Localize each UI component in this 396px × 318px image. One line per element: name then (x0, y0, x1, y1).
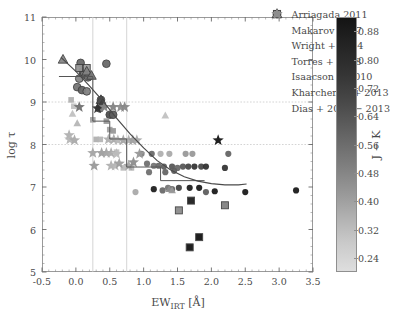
data-point (157, 151, 163, 157)
data-point (183, 151, 189, 157)
legend-label: Isaacson + 2010 (291, 71, 372, 82)
data-point (187, 185, 193, 191)
data-point (203, 164, 209, 170)
colorbar-tick-label: 0.24 (358, 252, 379, 263)
x-tick-label: 3.0 (272, 276, 287, 287)
x-axis-label: EWIRT [Å] (151, 296, 205, 311)
y-tick-label: 7 (30, 182, 36, 193)
colorbar-tick-label: 0.56 (358, 139, 379, 150)
data-point (166, 151, 172, 157)
data-point (293, 187, 299, 193)
data-point (132, 189, 138, 195)
data-point (180, 164, 186, 170)
x-axis-label-sub: IRT (171, 302, 185, 311)
y-tick-label: 10 (24, 54, 36, 65)
y-tick-label: 5 (30, 267, 36, 278)
data-point (110, 128, 116, 134)
colorbar-tick (354, 145, 358, 146)
data-point (221, 202, 228, 209)
x-tick-label: 0.5 (102, 276, 117, 287)
y-tick-label: 6 (30, 224, 36, 235)
data-point (189, 151, 195, 157)
data-point (73, 119, 81, 126)
data-point (146, 169, 152, 175)
colorbar-tick-label: 0.32 (358, 224, 379, 235)
data-point (213, 134, 224, 145)
colorbar-tick-label: 0.48 (358, 167, 379, 178)
data-point (69, 110, 77, 117)
colorbar-tick (354, 201, 358, 202)
colorbar-tick (354, 60, 358, 61)
y-tick-label: 9 (30, 97, 36, 108)
series-torres-2008 (132, 151, 299, 195)
colorbar-tick-label: 0.80 (358, 54, 379, 65)
data-point (83, 88, 91, 96)
x-tick-label: 1.5 (170, 276, 185, 287)
data-point (203, 189, 209, 195)
data-point (185, 164, 191, 170)
data-point (191, 164, 197, 170)
data-point (160, 187, 166, 193)
x-tick-label: 2.0 (204, 276, 219, 287)
y-tick-label: 11 (24, 12, 36, 23)
data-point (151, 186, 157, 192)
data-point (134, 148, 145, 159)
data-point (222, 165, 228, 171)
data-point (111, 148, 122, 159)
data-point (242, 189, 248, 195)
series-makarov-2007 (76, 65, 229, 251)
colorbar-tick-label: 0.72 (358, 82, 379, 93)
colorbar-tick (354, 258, 358, 259)
x-tick-label: 3.5 (305, 276, 320, 287)
data-point (97, 137, 103, 143)
data-point (196, 185, 202, 191)
data-point (74, 101, 85, 112)
series-dias-2002-2013 (63, 101, 223, 170)
x-tick-label: -0.5 (33, 276, 51, 287)
y-axis-label: log τ (5, 132, 18, 159)
data-point (68, 97, 74, 103)
data-point (186, 244, 193, 251)
colorbar-tick (354, 230, 358, 231)
data-point (196, 234, 203, 241)
x-tick-label: 1.0 (136, 276, 151, 287)
data-point (76, 65, 83, 72)
data-point (272, 8, 284, 19)
data-point (103, 60, 111, 68)
data-point (225, 151, 231, 157)
colorbar-tick (354, 88, 358, 89)
y-tick-label: 8 (30, 139, 36, 150)
colorbar-tick (354, 116, 358, 117)
data-point (89, 160, 100, 171)
colorbar-tick-label: 0.88 (358, 26, 379, 37)
x-tick-label: 0.0 (68, 276, 83, 287)
data-point (144, 161, 150, 167)
data-point (176, 185, 182, 191)
colorbar-tick-label: 0.64 (358, 111, 379, 122)
colorbar-tick (354, 173, 358, 174)
colorbar-tick-label: 0.40 (358, 196, 379, 207)
legend-item-0[interactable]: Arriagada 2011 (271, 8, 390, 21)
data-point (162, 169, 168, 175)
x-axis-label-unit: [Å] (185, 296, 205, 309)
legend-item-2[interactable]: Wright + 2004 (271, 39, 390, 52)
data-point (175, 207, 182, 214)
x-tick-label: 2.5 (238, 276, 253, 287)
data-point (188, 197, 195, 204)
figure-root: log τ Arriagada 2011Makarov 2007Wright +… (0, 0, 396, 318)
x-axis-label-main: EW (151, 296, 170, 309)
data-point (212, 188, 218, 194)
colorbar-tick (354, 31, 358, 32)
data-point (161, 112, 169, 119)
